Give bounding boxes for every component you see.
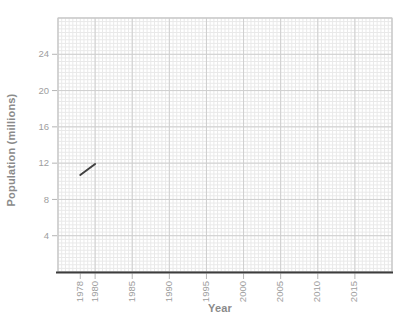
chart-canvas: 1978198019851990199520002005201020154812… — [0, 0, 410, 328]
y-tick-label: 24 — [38, 48, 49, 59]
y-tick-label: 16 — [38, 121, 49, 132]
x-tick-label: 2000 — [237, 281, 248, 302]
y-tick-label: 12 — [38, 157, 49, 168]
y-tick-label: 4 — [44, 230, 49, 241]
x-axis-ticks: 197819801985199019952000200520102015 — [74, 274, 360, 303]
x-tick-label: 1985 — [126, 281, 137, 302]
x-tick-label: 2005 — [274, 281, 285, 302]
x-tick-label: 2010 — [311, 281, 322, 302]
y-tick-label: 8 — [44, 194, 49, 205]
x-tick-label: 1978 — [74, 281, 85, 302]
x-tick-label: 2015 — [348, 281, 359, 302]
x-tick-label: 1990 — [163, 281, 174, 302]
x-axis-title: Year — [208, 302, 232, 314]
x-tick-label: 1980 — [89, 281, 100, 302]
population-chart-figure: 1978198019851990199520002005201020154812… — [0, 0, 410, 328]
x-tick-label: 1995 — [200, 281, 211, 302]
y-axis-ticks: 4812162024 — [38, 48, 57, 240]
y-axis-title: Population (millions) — [5, 94, 17, 207]
y-tick-label: 20 — [38, 85, 49, 96]
